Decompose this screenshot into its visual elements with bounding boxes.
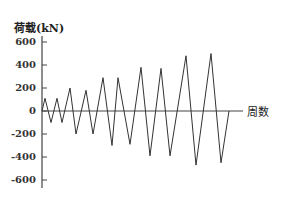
y-tick-label: 0	[0, 105, 36, 117]
y-axis-ticks	[42, 42, 47, 180]
y-tick-label: 200	[0, 82, 36, 94]
y-axis-title: 荷载(kN)	[14, 19, 64, 35]
y-tick-label: -200	[0, 128, 36, 140]
y-tick-label: 600	[0, 36, 36, 48]
y-tick-label: -600	[0, 174, 36, 186]
x-axis-title: 周数	[247, 103, 269, 119]
y-tick-label: 400	[0, 59, 36, 71]
load-series-line	[42, 54, 229, 166]
y-tick-label: -400	[0, 151, 36, 163]
